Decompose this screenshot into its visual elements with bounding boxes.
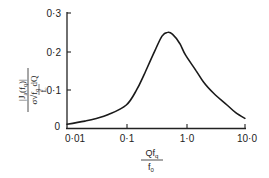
svg-text:fc: fc bbox=[38, 87, 48, 93]
y-tick-label-0: 0 bbox=[54, 121, 60, 132]
y-axis bbox=[67, 12, 71, 129]
x-tick-label-0.1: 0·1 bbox=[120, 133, 135, 144]
chart: 0·3 0·2 0·1 0 0·01 0·1 1·0 10·0 |Ja(fq)|… bbox=[0, 0, 269, 178]
svg-text:f0: f0 bbox=[148, 162, 155, 173]
x-axis bbox=[66, 124, 246, 129]
svg-text:Qfq: Qfq bbox=[146, 148, 159, 159]
x-tick-label-0.01: 0·01 bbox=[65, 133, 85, 144]
y-tick-label-0.1: 0·1 bbox=[47, 85, 62, 96]
svg-text:|Ja(fq)|: |Ja(fq)| bbox=[17, 79, 28, 101]
x-tick-label-10.0: 10·0 bbox=[237, 133, 257, 144]
response-curve bbox=[67, 32, 245, 124]
y-axis-label: |Ja(fq)| σ√fq dQ fc bbox=[17, 68, 48, 112]
x-axis-label: Qfq f0 bbox=[141, 148, 163, 173]
y-tick-label-0.3: 0·3 bbox=[47, 8, 62, 19]
y-tick-label-0.2: 0·2 bbox=[47, 47, 62, 58]
x-tick-label-1.0: 1·0 bbox=[180, 133, 195, 144]
